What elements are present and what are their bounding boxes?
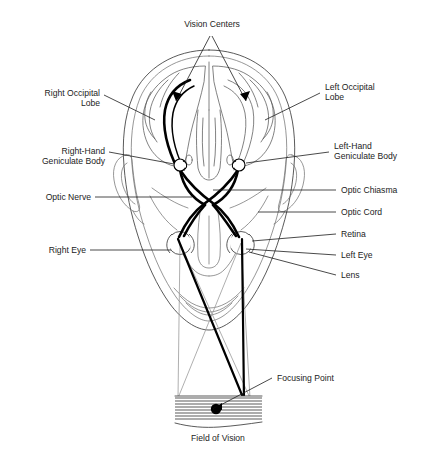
label-right-hand-geniculate-line1: Right-Hand (62, 146, 106, 156)
facial-structures-group (150, 188, 268, 315)
field-of-vision-group (175, 396, 262, 427)
label-right-eye: Right Eye (49, 245, 86, 255)
label-retina: Retina (341, 229, 366, 239)
label-vision-centers: Vision Centers (184, 19, 240, 29)
cone-line-right-outer (178, 243, 180, 398)
cone-line-left-inner (178, 243, 241, 398)
right-occipital-lobe-shape (143, 66, 205, 166)
leader-right-hand-geniculate-body (109, 152, 174, 164)
label-lens: Lens (341, 270, 360, 280)
label-optic-chiasma: Optic Chiasma (341, 185, 398, 195)
label-left-occipital-lobe-line1: Left Occipital (325, 82, 375, 92)
label-optic-cord: Optic Cord (341, 207, 382, 217)
leader-left-hand-geniculate-body (246, 152, 329, 163)
mandible-arc-1 (174, 288, 244, 308)
optic-nerve-left (213, 205, 236, 236)
visual-pathway-diagram: Vision Centers Right Occipital Lobe Righ… (0, 0, 438, 456)
label-left-eye: Left Eye (341, 250, 373, 260)
label-optic-nerve: Optic Nerve (46, 192, 92, 202)
left-occipital-lobe-shape (213, 66, 275, 166)
midbrain-detail (202, 118, 204, 166)
label-right-hand-geniculate-line2: Geniculate Body (42, 156, 106, 166)
sight-line-left-eye-to-focus (242, 239, 244, 400)
leader-lines-group (90, 36, 336, 410)
label-field-of-vision: Field of Vision (191, 433, 245, 443)
left-occipital-gyri-2 (239, 73, 258, 107)
label-left-hand-geniculate-line2: Geniculate Body (334, 151, 398, 161)
leader-retina (252, 234, 336, 241)
leader-left-eye (246, 249, 336, 255)
midbrain-detail-2 (214, 118, 216, 166)
label-left-occipital-lobe-line2: Lobe (325, 92, 344, 102)
sphenoid-wing-left (230, 188, 266, 208)
label-left-hand-geniculate-line1: Left-Hand (334, 141, 372, 151)
sphenoid-wing-right (152, 188, 188, 208)
label-right-occipital-lobe-line1: Right Occipital (45, 88, 100, 98)
mandible-arc-2 (180, 296, 238, 312)
label-right-occipital-lobe-line2: Lobe (81, 98, 100, 108)
leader-vision-centers-left (212, 36, 246, 101)
label-focusing-point: Focusing Point (277, 373, 334, 383)
leader-lens (249, 252, 336, 275)
